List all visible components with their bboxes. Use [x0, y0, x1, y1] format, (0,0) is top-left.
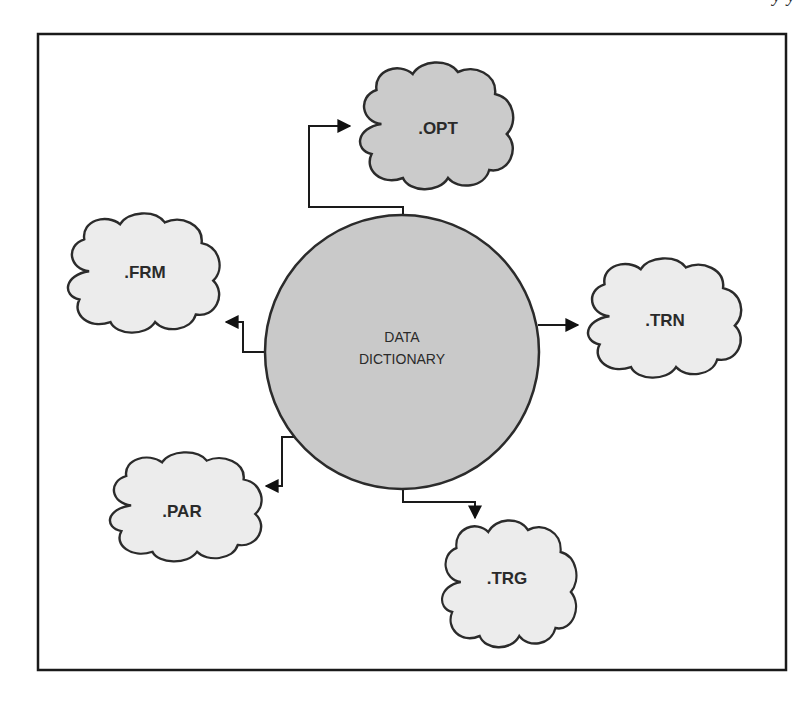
cloud-label-frm: .FRM: [124, 263, 166, 282]
connector-par: [266, 437, 300, 486]
hub-node-data-dictionary: DATA DICTIONARY: [265, 215, 539, 489]
diagram-canvas: y y DATA DICTIONARY: [0, 0, 806, 705]
cloud-label-opt: .OPT: [418, 119, 458, 138]
diagram-svg: DATA DICTIONARY .OPT .FRM .TRN .PAR .TRG: [0, 0, 806, 705]
cloud-label-par: .PAR: [162, 502, 201, 521]
cloud-label-trg: .TRG: [487, 569, 528, 588]
cropped-page-text: y y: [773, 0, 796, 7]
connector-frm: [226, 322, 267, 352]
cloud-label-trn: .TRN: [645, 311, 685, 330]
hub-label-line2: DICTIONARY: [359, 351, 446, 367]
hub-label-line1: DATA: [384, 329, 420, 345]
